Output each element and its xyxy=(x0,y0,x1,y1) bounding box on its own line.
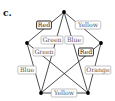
edge-label-green: Green xyxy=(41,36,63,44)
svg-text:Green: Green xyxy=(42,36,61,43)
node-right xyxy=(99,41,103,45)
node-left xyxy=(25,41,29,45)
graph-figure: c. RedYellowGreenBlueGreenRedBlueOrangeY… xyxy=(0,0,115,101)
panel-label: c. xyxy=(3,8,12,18)
edge-label-red: Red xyxy=(79,48,94,56)
svg-text:Red: Red xyxy=(38,21,50,28)
pentagon-graph: RedYellowGreenBlueGreenRedBlueOrangeYell… xyxy=(0,0,115,101)
svg-text:Blue: Blue xyxy=(67,36,82,43)
edge-label-orange: Orange xyxy=(85,66,111,74)
edge-label-yellow: Yellow xyxy=(51,89,77,97)
svg-text:Blue: Blue xyxy=(20,66,35,73)
node-top xyxy=(62,10,66,14)
svg-text:Orange: Orange xyxy=(86,66,110,74)
edge-label-blue: Blue xyxy=(18,66,36,74)
edge-label-blue: Blue xyxy=(65,36,83,44)
node-bottom-right xyxy=(86,91,90,95)
svg-text:Green: Green xyxy=(34,48,53,55)
edge-label-yellow: Yellow xyxy=(75,21,101,29)
svg-text:Red: Red xyxy=(80,48,92,55)
edge-label-green: Green xyxy=(33,48,55,56)
node-bottom-left xyxy=(39,91,43,95)
svg-text:Yellow: Yellow xyxy=(77,21,99,28)
edge-label-red: Red xyxy=(37,21,52,29)
svg-text:Yellow: Yellow xyxy=(53,89,75,96)
